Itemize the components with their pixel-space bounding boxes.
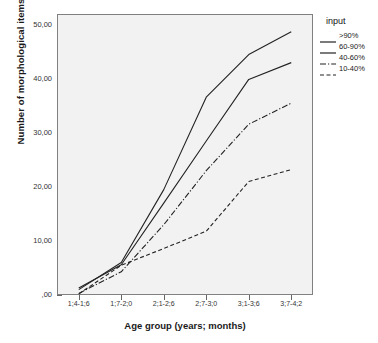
legend-title: input [326,16,378,26]
legend-item-3[interactable]: 10-40% [320,63,378,74]
x-tick-mark [291,295,292,300]
x-tick-mark [206,295,207,300]
legend-item-0[interactable]: >90% [320,30,378,41]
x-tick-mark [121,295,122,300]
legend: input >90%60-90%40-60%10-40% [320,16,378,74]
legend-item-1[interactable]: 60-90% [320,41,378,52]
legend-item-2[interactable]: 40-60% [320,52,378,63]
x-tick-mark [249,295,250,300]
legend-label: >90% [339,31,358,40]
legend-label: 40-60% [339,53,365,62]
legend-label: 60-90% [339,42,365,51]
legend-swatch-icon [320,65,336,73]
x-axis-title: Age group (years; months) [57,320,313,331]
legend-label: 10-40% [339,64,365,73]
x-tick-mark [164,295,165,300]
legend-items: >90%60-90%40-60%10-40% [320,30,378,74]
line-chart: Number of morphological items ,0010,0020… [0,0,378,343]
legend-swatch-icon [320,54,336,62]
legend-swatch-icon [320,32,336,40]
legend-swatch-icon [320,43,336,51]
x-tick-mark [79,295,80,300]
x-tick-label: 3;7-4;2 [261,300,321,308]
